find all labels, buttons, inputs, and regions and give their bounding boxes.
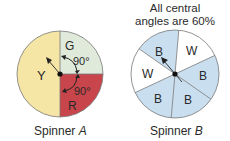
spinner-a: Y G R 90° 90° Spinner A — [17, 31, 103, 138]
spinner-a-label-g: G — [65, 39, 74, 53]
spinner-b-header-line2: angles are 60% — [135, 15, 215, 27]
spinner-a-caption: Spinner A — [34, 124, 87, 138]
spinner-b: All central angles are 60% B W B B B W S… — [131, 2, 219, 138]
angle-label-bottom: 90° — [74, 85, 91, 97]
spinner-a-pivot — [57, 71, 62, 76]
spinner-a-label-y: Y — [37, 68, 46, 83]
spinner-a-label-r: R — [68, 99, 77, 113]
spinner-b-label: W — [142, 67, 154, 81]
spinner-b-label: W — [186, 44, 198, 58]
spinner-b-caption: Spinner B — [150, 124, 203, 138]
spinner-b-label: B — [184, 93, 192, 107]
angle-label-top: 90° — [73, 55, 90, 67]
spinner-b-label: B — [154, 92, 162, 106]
spinners-figure: Y G R 90° 90° Spinner A All central angl… — [0, 0, 230, 141]
spinner-b-header-line1: All central — [150, 2, 201, 14]
spinner-b-label: B — [199, 69, 207, 83]
spinner-b-label: B — [155, 45, 163, 59]
spinner-b-pivot — [172, 71, 177, 76]
